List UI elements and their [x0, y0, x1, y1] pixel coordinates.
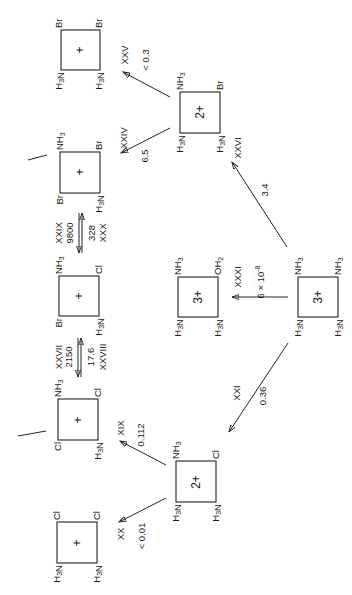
ligand-top-right: Cl: [91, 511, 102, 520]
rate-value: 9800: [64, 222, 75, 243]
ligand-bottom-left: H3N: [51, 565, 64, 583]
charge-label: +: [71, 416, 85, 423]
reaction-scheme: + Br Br H3N H3N + NH3 Br Br H3N XXIX 980…: [0, 0, 352, 595]
ligand-bottom-right: H3N: [214, 135, 227, 153]
ligand-top-left: NH3: [292, 257, 304, 275]
ligand-bottom-left: H3N: [170, 504, 183, 522]
reaction-xix: XIX 0.112: [115, 420, 166, 465]
ligand-bottom-left: H3N: [174, 135, 187, 153]
rate-mantissa: 6 × 10: [255, 272, 266, 299]
rate-value: 6 × 10-8: [254, 265, 266, 298]
rate-value: 0.36: [257, 387, 268, 406]
reaction-xx: XX < 0.01: [115, 498, 166, 549]
ligand-bottom-right: H3N: [91, 565, 104, 583]
reaction-label: XXXI: [232, 266, 243, 288]
reaction-xxv: XXV < 0.3: [119, 45, 170, 97]
ligand-top-left: NH3: [172, 257, 184, 275]
ligand-bottom-right: H3N: [93, 72, 106, 90]
complex-2plus-cl: 2+ NH3 Cl H3N H3N: [170, 441, 223, 521]
reaction-label: XXV: [119, 45, 130, 65]
reaction-label: XXX: [97, 223, 108, 243]
ligand-top-left: NH3: [54, 132, 66, 150]
ligand-top-left: NH3: [174, 72, 186, 90]
charge-label: +: [73, 168, 87, 175]
reaction-label: XXVIII: [97, 344, 108, 371]
charge-label: +: [70, 539, 84, 546]
rate-exponent: -8: [254, 265, 261, 271]
complex-3plus-oh2: 3+ NH3 OH2 H3N H3N: [172, 257, 225, 337]
rate-value: < 0.3: [140, 49, 151, 70]
reaction-label: XXVI: [232, 137, 243, 159]
ligand-bottom-left: H3N: [172, 319, 185, 337]
charge-label: 3+: [311, 290, 325, 304]
ligand-top-left: NH3: [53, 256, 65, 274]
equilibrium-xxvii-xxviii: XXVII 2150 17.6 XXVIII: [53, 338, 108, 377]
reaction-label: XX: [115, 527, 126, 540]
rate-value: 6.5: [139, 149, 150, 162]
complex-nh3-br: + NH3 Br Br H3N: [54, 132, 106, 212]
ligand-bottom-right: H3N: [210, 504, 223, 522]
charge-label: 2+: [189, 475, 203, 489]
ligand-bottom-right: H3N: [93, 195, 106, 213]
rate-value: 17.6: [85, 348, 96, 367]
rate-value: < 0.01: [136, 523, 147, 550]
complex-nh3-cl-cl: + NH3 Cl Cl H3N: [52, 379, 105, 459]
ligand-top-right: Br: [214, 81, 225, 91]
ligand-bottom-left: H3N: [292, 319, 305, 337]
ligand-bottom-right: H3N: [92, 442, 105, 460]
reaction-xxiv: XXIV 6.5: [118, 127, 170, 163]
ligand-top-right: Br: [93, 141, 104, 151]
reaction-label: XIX: [115, 420, 126, 436]
equilibrium-xxix-xxx: XXIX 9800 328 XXX: [53, 213, 108, 253]
charge-label: +: [72, 292, 86, 299]
ligand-bottom-right: H3N: [332, 319, 345, 337]
ligand-top-right: NH3: [332, 257, 344, 275]
ligand-top-right: Br: [93, 19, 104, 29]
ligand-bottom-left: Br: [54, 195, 65, 205]
reaction-label: XXIX: [53, 222, 64, 244]
ligand-top-right: Cl: [92, 388, 103, 397]
separator-tick: [28, 155, 47, 160]
complex-3plus-main: 3+ NH3 NH3 H3N H3N: [292, 257, 345, 336]
ligand-bottom-right: H3N: [93, 318, 106, 336]
ligand-top-right: Cl: [210, 450, 221, 459]
rate-value: 3.4: [259, 183, 270, 196]
reaction-xxxi: XXXI 6 × 10-8: [232, 265, 288, 298]
complex-cl-cl: + Cl Cl H3N H3N: [51, 511, 104, 583]
charge-label: 3+: [191, 290, 205, 304]
ligand-top-left: NH3: [52, 379, 64, 397]
ligand-bottom-right: H3N: [212, 319, 225, 337]
reaction-xxvi: XXVI 3.4: [232, 137, 287, 247]
reaction-xxi: XXI 0.36: [229, 343, 288, 432]
rate-value: 0.112: [135, 423, 146, 446]
complex-br-br: + Br Br H3N H3N: [53, 19, 106, 90]
ligand-top-left: Cl: [51, 511, 62, 520]
complex-2plus-br: 2+ NH3 Br H3N H3N: [174, 72, 227, 152]
charge-label: +: [73, 46, 87, 53]
rate-value: 2150: [63, 346, 74, 367]
reaction-label: XXI: [231, 385, 242, 400]
rate-value: 328: [86, 225, 97, 241]
reaction-label: XXIV: [118, 127, 129, 149]
ligand-bottom-left: H3N: [53, 72, 66, 90]
ligand-top-right: OH2: [212, 257, 224, 275]
ligand-bottom-left: Br: [53, 318, 64, 328]
separator-tick: [18, 431, 46, 436]
complex-nh3-cl-br: + NH3 Cl Br H3N: [53, 256, 106, 335]
ligand-top-right: Cl: [93, 265, 104, 274]
ligand-top-left: Br: [53, 19, 64, 29]
ligand-top-left: NH3: [170, 441, 182, 459]
charge-label: 2+: [193, 105, 207, 119]
ligand-bottom-left: Cl: [52, 442, 63, 451]
